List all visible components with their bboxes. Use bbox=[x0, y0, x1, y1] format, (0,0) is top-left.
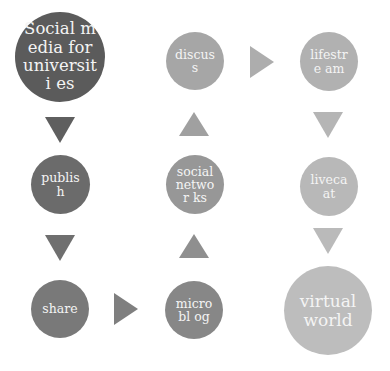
node-social-networks: social networ ks bbox=[166, 155, 224, 214]
arrow-down-icon bbox=[45, 235, 75, 261]
arrow-up-icon bbox=[179, 234, 209, 258]
arrow-right-icon bbox=[250, 46, 274, 78]
node-label: livecaat bbox=[307, 173, 351, 199]
node-discuss: discuss bbox=[166, 32, 224, 90]
node-label: virtual world bbox=[290, 292, 366, 329]
node-label: share bbox=[38, 302, 82, 315]
node-label: publish bbox=[39, 171, 83, 197]
arrow-down-icon bbox=[45, 117, 75, 143]
node-share: share bbox=[31, 280, 89, 338]
node-publish: publish bbox=[31, 155, 90, 214]
node-livecast: livecaat bbox=[300, 157, 358, 216]
node-label: microbl og bbox=[172, 297, 216, 323]
arrow-right-icon bbox=[114, 293, 138, 325]
node-social-media-for-universities: Social media for universiti es bbox=[15, 12, 105, 102]
node-lifestream: lifestre am bbox=[300, 32, 358, 91]
node-label: lifestre am bbox=[307, 48, 351, 74]
arrow-down-icon bbox=[313, 228, 343, 254]
arrow-down-icon bbox=[313, 112, 343, 138]
node-label: social networ ks bbox=[173, 165, 217, 204]
arrow-up-icon bbox=[179, 112, 209, 136]
node-label: discuss bbox=[173, 48, 217, 74]
node-label: Social media for universiti es bbox=[23, 20, 97, 94]
node-microblog: microbl og bbox=[165, 281, 223, 339]
node-virtual-world: virtual world bbox=[284, 266, 372, 355]
